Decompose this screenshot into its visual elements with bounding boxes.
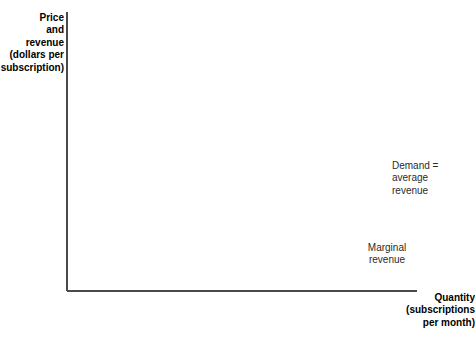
x-axis-title: Quantity (subscriptions per month)	[396, 292, 475, 329]
y-axis-title: Price and revenue (dollars per subscript…	[0, 12, 64, 74]
demand-curve-label: Demand = average revenue	[392, 160, 475, 197]
marginal-revenue-curve-label: Marginal revenue	[351, 242, 423, 267]
chart-container: Price and revenue (dollars per subscript…	[0, 0, 475, 337]
